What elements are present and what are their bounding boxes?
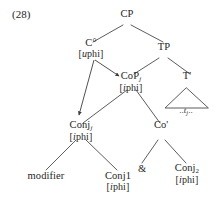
node-c-head: C° [uphi] bbox=[78, 38, 103, 59]
node-conj2: Conj2 [iphi] bbox=[175, 163, 199, 186]
node-cop-features: [iphi] bbox=[120, 83, 143, 93]
trace-tj: ..tj.. bbox=[179, 105, 192, 116]
node-conj1-features: [iphi] bbox=[105, 182, 131, 192]
node-cp: CP bbox=[120, 9, 133, 20]
node-conj1: Conj1 [iphi] bbox=[105, 171, 131, 192]
branch-conj-modifier bbox=[46, 140, 76, 170]
branch-conj-conj1 bbox=[86, 140, 117, 170]
node-conj-j: Conjj [iphi] bbox=[70, 120, 93, 143]
node-cop: CoPj [iphi] bbox=[120, 71, 143, 94]
node-conj-j-features: [iphi] bbox=[70, 132, 93, 142]
node-cobar: Co' bbox=[154, 120, 168, 131]
branch-cobar-conj2 bbox=[165, 140, 186, 163]
branch-cp-tp bbox=[131, 25, 163, 42]
node-tp-label: TP bbox=[158, 42, 170, 53]
node-c-head-features: [uphi] bbox=[78, 49, 103, 59]
syntax-tree-figure: (28) bbox=[0, 0, 224, 210]
node-tbar: T' bbox=[183, 71, 191, 82]
node-conj2-features: [iphi] bbox=[175, 175, 199, 185]
node-cobar-label: Co' bbox=[154, 120, 168, 131]
node-coordinator: & bbox=[138, 163, 146, 174]
node-modifier-label: modifier bbox=[28, 171, 65, 182]
node-cp-label: CP bbox=[120, 9, 133, 20]
agree-arrow-c-to-cop bbox=[95, 60, 119, 76]
node-modifier: modifier bbox=[28, 171, 65, 182]
node-tbar-label: T' bbox=[183, 71, 191, 82]
agree-arrow-c-to-conj bbox=[79, 60, 94, 115]
branch-cobar-coord bbox=[142, 140, 158, 163]
node-tp: TP bbox=[158, 42, 170, 53]
